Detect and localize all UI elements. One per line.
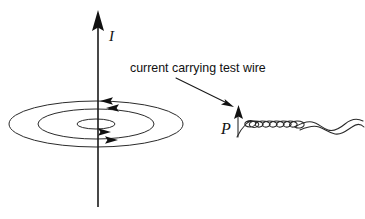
caption-leader-group — [176, 78, 234, 107]
field-line-middle — [38, 109, 154, 139]
point-p-label: P — [220, 120, 231, 137]
test-wire-direction-arrow — [234, 105, 243, 137]
test-wire-helix-path — [237, 121, 304, 137]
field-arrow-bottom-inner — [98, 128, 111, 136]
magnetic-field-lines — [9, 101, 183, 147]
diagram-canvas: I current carrying test wire P — [0, 0, 365, 219]
current-label: I — [108, 28, 115, 44]
physics-diagram-figure: I current carrying test wire P magnetic … — [0, 0, 365, 219]
field-arrow-top-inner — [106, 104, 119, 112]
current-axis-group — [92, 10, 104, 207]
caption-leader-arrowhead — [221, 99, 234, 107]
caption-leader-line — [176, 78, 229, 104]
field-arrow-bottom-outer — [105, 136, 118, 144]
field-line-inner — [77, 119, 115, 129]
caption-label: current carrying test wire — [130, 61, 266, 75]
test-wire-helix — [237, 119, 364, 137]
field-line-outer — [9, 101, 183, 147]
test-wire-tail-wave — [295, 119, 363, 130]
test-wire-tail-wave-lower — [300, 124, 364, 134]
